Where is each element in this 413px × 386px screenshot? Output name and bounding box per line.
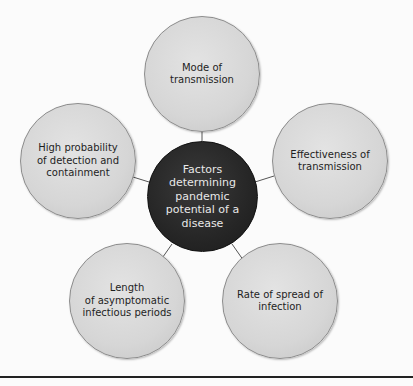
center-node: Factors determining pandemic potential o… <box>147 141 258 252</box>
node-label: Mode of transmission <box>164 62 240 87</box>
node-label: Effectiveness of transmission <box>284 149 375 174</box>
node-effectiveness-of-transmission: Effectiveness of transmission <box>272 103 388 219</box>
node-rate-of-spread: Rate of spread of infection <box>222 243 338 359</box>
connector-effectiveness <box>255 176 274 182</box>
connector-detection <box>133 177 149 182</box>
node-label: Length of asymptomatic infectious period… <box>77 282 178 320</box>
node-detection-containment: High probability of detection and contai… <box>20 103 136 219</box>
node-length-asymptomatic: Length of asymptomatic infectious period… <box>69 243 185 359</box>
pandemic-factors-diagram: Mode of transmission Effectiveness of tr… <box>0 0 413 386</box>
bottom-rule-divider <box>0 376 413 378</box>
center-label: Factors determining pandemic potential o… <box>160 163 245 231</box>
node-mode-of-transmission: Mode of transmission <box>144 16 260 132</box>
node-label: Rate of spread of infection <box>231 289 329 314</box>
node-label: High probability of detection and contai… <box>31 142 125 180</box>
